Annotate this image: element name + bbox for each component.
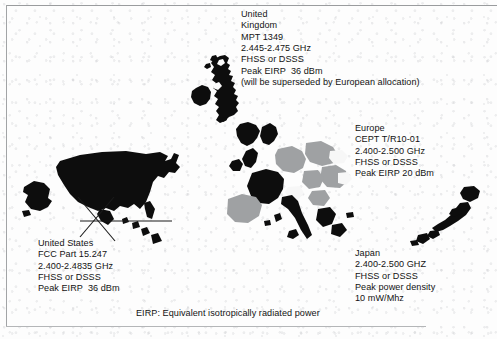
figure-border-top [6, 5, 497, 6]
united-kingdom-map [186, 54, 248, 126]
europe-info-block: Europe CEPT T/R10-01 2.400-2.500 GHz FHS… [355, 123, 434, 180]
united-states-info-block: United States FCC Part 15.247 2.400-2.48… [38, 238, 120, 295]
wireless-regulatory-map-figure: United Kingdom MPT 1349 2.445-2.475 GHz … [0, 0, 497, 339]
figure-border-bottom [6, 326, 426, 327]
japan-info-block: Japan 2.400-2.500 GHZ FHSS or DSSS Peak … [355, 248, 435, 305]
united-states-map [22, 145, 186, 245]
figure-border-left [6, 5, 7, 327]
united-kingdom-info-block: United Kingdom MPT 1349 2.445-2.475 GHz … [241, 9, 420, 88]
europe-map [226, 121, 358, 243]
figure-caption: EIRP: Equivalent isotropically radiated … [136, 308, 320, 319]
japan-map [408, 185, 492, 247]
